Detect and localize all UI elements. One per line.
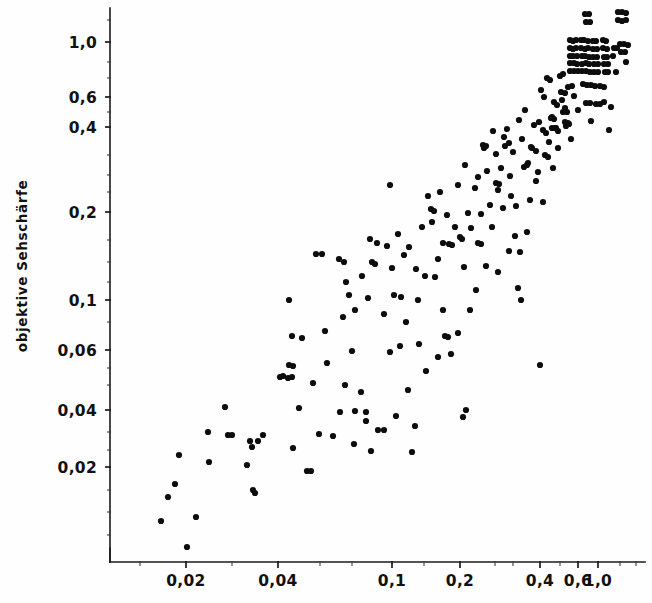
data-point: [413, 266, 419, 272]
data-point: [351, 441, 357, 447]
data-point: [310, 380, 316, 386]
data-point: [489, 224, 495, 230]
x-tick-label: 0,4: [526, 572, 554, 590]
data-point: [435, 256, 441, 262]
data-point: [425, 193, 431, 199]
data-point: [381, 427, 387, 433]
data-point: [384, 243, 390, 249]
data-point: [506, 248, 512, 254]
x-tick-label: 0,04: [258, 572, 297, 590]
data-point: [462, 162, 468, 168]
data-point: [468, 225, 474, 231]
data-point: [423, 368, 429, 374]
data-point: [252, 490, 258, 496]
data-point: [419, 224, 425, 230]
data-point: [496, 181, 502, 187]
data-point: [498, 165, 504, 171]
data-point: [493, 151, 499, 157]
data-point: [449, 242, 455, 248]
x-tick-label: 1,0: [584, 572, 612, 590]
data-point: [555, 145, 561, 151]
y-tick-label: 0,4: [69, 119, 97, 137]
data-point: [500, 205, 506, 211]
data-point: [249, 444, 255, 450]
data-point: [504, 126, 510, 132]
data-point: [324, 360, 330, 366]
data-point: [437, 189, 443, 195]
data-point: [535, 169, 541, 175]
data-point: [435, 354, 441, 360]
data-point: [330, 433, 336, 439]
data-point: [395, 231, 401, 237]
data-point: [516, 117, 522, 123]
data-point: [513, 203, 519, 209]
data-point: [416, 341, 422, 347]
data-point: [255, 438, 261, 444]
data-point: [445, 334, 451, 340]
data-point: [296, 405, 302, 411]
y-tick-label: 0,02: [58, 459, 97, 477]
y-tick-label: 0,2: [69, 204, 97, 222]
data-point: [381, 311, 387, 317]
data-point: [290, 445, 296, 451]
data-point: [444, 212, 450, 218]
data-point: [222, 404, 228, 410]
data-point: [461, 264, 467, 270]
data-point: [387, 349, 393, 355]
data-point: [594, 46, 600, 52]
data-point: [546, 139, 552, 145]
data-point: [432, 274, 438, 280]
x-tick-label: 0,02: [166, 572, 205, 590]
data-point: [455, 330, 461, 336]
data-point: [352, 408, 358, 414]
data-point: [604, 46, 610, 52]
data-point: [623, 17, 629, 23]
y-tick-label: 0,04: [58, 402, 97, 420]
data-point: [622, 49, 628, 55]
scatter-plot-canvas: 1,00,60,40,20,10,060,040,020,020,040,10,…: [0, 0, 652, 603]
data-point: [184, 544, 190, 550]
data-point: [562, 90, 568, 96]
data-point: [260, 432, 266, 438]
y-axis-title: objektive Sehschärfe: [14, 166, 30, 366]
data-point: [608, 104, 614, 110]
data-point: [587, 100, 593, 106]
data-point: [429, 219, 435, 225]
data-point: [406, 244, 412, 250]
data-point: [484, 168, 490, 174]
data-point: [506, 140, 512, 146]
data-point: [391, 292, 397, 298]
data-point: [587, 19, 593, 25]
data-point: [605, 61, 611, 67]
data-point: [586, 11, 592, 17]
data-point: [483, 143, 489, 149]
data-point: [359, 273, 365, 279]
data-point: [341, 259, 347, 265]
data-point: [569, 83, 575, 89]
data-point: [495, 187, 501, 193]
data-point: [343, 279, 349, 285]
data-point: [490, 128, 496, 134]
data-point: [487, 202, 493, 208]
tick-labels-group: 1,00,60,40,20,10,060,040,020,020,040,10,…: [58, 34, 613, 591]
data-point: [507, 173, 513, 179]
data-point: [229, 432, 235, 438]
y-tick-label: 0,06: [58, 342, 97, 360]
data-point: [459, 236, 465, 242]
y-tick-label: 0,6: [69, 89, 97, 107]
data-point: [319, 251, 325, 257]
data-point: [401, 252, 407, 258]
data-point: [448, 351, 454, 357]
data-point: [595, 61, 601, 67]
data-point: [575, 107, 581, 113]
data-point: [605, 69, 611, 75]
data-point: [393, 413, 399, 419]
data-point: [473, 287, 479, 293]
data-point: [337, 409, 343, 415]
data-point: [397, 343, 403, 349]
data-point: [405, 387, 411, 393]
data-point: [346, 292, 352, 298]
chart-figure: 1,00,60,40,20,10,060,040,020,020,040,10,…: [0, 0, 652, 603]
data-point: [554, 102, 560, 108]
data-point: [463, 407, 469, 413]
